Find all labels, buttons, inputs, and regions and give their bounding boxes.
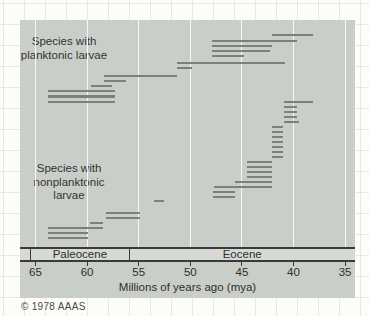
- planktonic-range-bar: [212, 50, 270, 53]
- nonplanktonic-range-bar: [90, 222, 102, 225]
- nonplanktonic-range-bar: [154, 200, 164, 203]
- nonplanktonic-range-bar: [235, 181, 272, 184]
- gridline: [190, 20, 191, 247]
- nonplanktonic-range-bar: [284, 106, 296, 109]
- nonplanktonic-range-bar: [272, 141, 283, 144]
- nonplanktonic-range-bar: [247, 166, 272, 169]
- nonplanktonic-range-bar: [284, 116, 296, 119]
- nonplanktonic-range-bar: [284, 101, 313, 104]
- nonplanktonic-group-label: Species with nonplanktonic larvae: [23, 162, 115, 203]
- planktonic-range-bar: [104, 80, 127, 83]
- planktonic-range-bar: [48, 101, 115, 104]
- copyright-text: © 1978 AAAS: [21, 301, 86, 312]
- gridline: [293, 20, 294, 247]
- tick-label: 55: [127, 266, 151, 278]
- nonplanktonic-range-bar: [213, 196, 235, 199]
- planktonic-range-bar: [104, 75, 177, 78]
- range-chart-figure: Species with planktonic larvae Species w…: [0, 0, 369, 316]
- nonplanktonic-range-bar: [272, 146, 283, 149]
- nonplanktonic-range-bar: [247, 161, 272, 164]
- planktonic-range-bar: [212, 55, 244, 58]
- nonplanktonic-range-bar: [214, 186, 272, 189]
- tick-label: 35: [333, 266, 357, 278]
- nonplanktonic-label-line1: Species with: [23, 162, 115, 176]
- nonplanktonic-range-bar: [48, 232, 88, 235]
- planktonic-range-bar: [177, 67, 192, 70]
- nonplanktonic-range-bar: [48, 227, 103, 230]
- nonplanktonic-range-bar: [284, 111, 296, 114]
- tick-label: 65: [24, 266, 48, 278]
- planktonic-label-line2: planktonic larvae: [18, 49, 110, 63]
- tick-label: 50: [178, 266, 202, 278]
- nonplanktonic-range-bar: [272, 131, 283, 134]
- gridline: [345, 20, 346, 247]
- gridline: [35, 20, 36, 247]
- epoch-label: Paleocene: [30, 249, 129, 261]
- planktonic-group-label: Species with planktonic larvae: [18, 35, 110, 62]
- nonplanktonic-range-bar: [272, 156, 283, 159]
- tick-label: 40: [282, 266, 306, 278]
- nonplanktonic-range-bar: [284, 121, 298, 124]
- planktonic-range-bar: [212, 45, 272, 48]
- planktonic-range-bar: [91, 85, 112, 88]
- nonplanktonic-range-bar: [213, 191, 235, 194]
- gridline: [87, 20, 88, 247]
- epoch-label: Eocene: [129, 249, 355, 261]
- planktonic-range-bar: [177, 62, 285, 65]
- x-axis-title: Millions of years ago (mya): [20, 281, 355, 293]
- nonplanktonic-range-bar: [48, 237, 88, 240]
- nonplanktonic-label-line3: larvae: [23, 189, 115, 203]
- nonplanktonic-label-line2: nonplanktonic: [23, 176, 115, 190]
- nonplanktonic-range-bar: [272, 126, 283, 129]
- nonplanktonic-range-bar: [272, 136, 283, 139]
- nonplanktonic-range-bar: [247, 171, 272, 174]
- nonplanktonic-range-bar: [106, 217, 140, 220]
- nonplanktonic-range-bar: [106, 212, 140, 215]
- planktonic-label-line1: Species with: [18, 35, 110, 49]
- planktonic-range-bar: [272, 34, 313, 37]
- tick-label: 60: [75, 266, 99, 278]
- nonplanktonic-range-bar: [272, 151, 283, 154]
- tick-label: 45: [230, 266, 254, 278]
- planktonic-range-bar: [48, 90, 115, 93]
- planktonic-range-bar: [212, 40, 297, 43]
- planktonic-range-bar: [48, 95, 115, 98]
- nonplanktonic-range-bar: [247, 176, 272, 179]
